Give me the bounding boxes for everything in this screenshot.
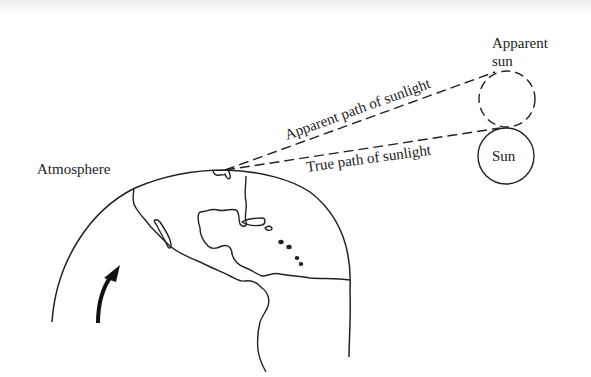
apparent-path-label: Apparent path of sunlight <box>283 75 434 143</box>
atmosphere-label: Atmosphere <box>37 161 111 177</box>
rotation-arrow-icon <box>98 265 120 323</box>
earth-outline <box>52 170 350 357</box>
sun-label: Sun <box>492 148 516 164</box>
apparent-sun-circle <box>479 71 535 127</box>
apparent-sun-label-line2: sun <box>492 53 513 69</box>
apparent-sun-label-line1: Apparent <box>492 35 549 51</box>
continents <box>133 170 350 372</box>
true-path-label: True path of sunlight <box>305 142 433 175</box>
refraction-diagram: Atmosphere Apparent sun Sun Apparent pat… <box>0 0 591 377</box>
